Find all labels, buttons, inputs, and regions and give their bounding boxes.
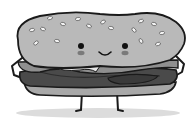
left-cheek — [78, 51, 85, 55]
burger-character-graphic — [0, 0, 195, 124]
top-bun — [17, 12, 185, 68]
right-cheek — [122, 51, 129, 55]
left-eye — [78, 43, 84, 49]
ground-shadow — [16, 108, 180, 118]
burger-illustration: Cartoon smiling burger character — [0, 0, 195, 124]
right-eye — [122, 43, 128, 49]
